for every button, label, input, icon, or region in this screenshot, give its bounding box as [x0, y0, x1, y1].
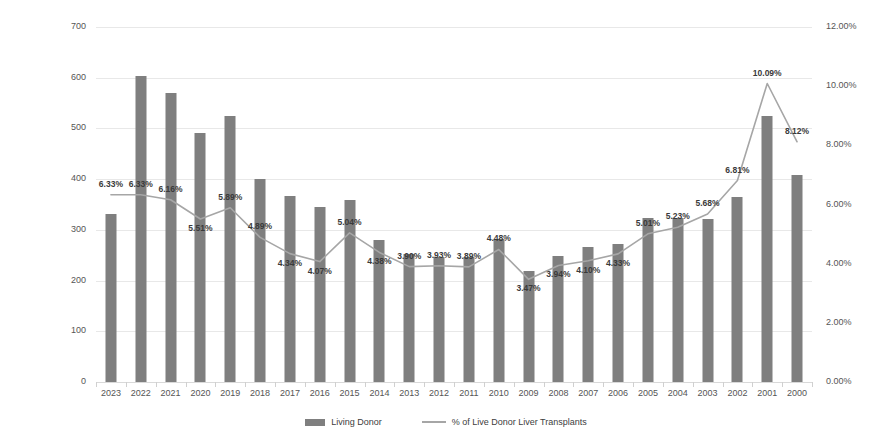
x-tick-2003: 2003: [698, 388, 718, 398]
point-label-2002: 6.81%: [725, 165, 749, 175]
left-axis-tick-0: 0: [30, 376, 86, 386]
left-axis-tick-700: 700: [30, 21, 86, 31]
point-label-2021: 6.16%: [159, 184, 183, 194]
point-label-2017: 4.34%: [278, 258, 302, 268]
x-tickmark: [186, 382, 187, 387]
left-axis-tick-300: 300: [30, 224, 86, 234]
x-tick-2017: 2017: [280, 388, 300, 398]
point-label-2022: 6.33%: [129, 179, 153, 189]
x-tick-2015: 2015: [340, 388, 360, 398]
point-label-2006: 4.33%: [606, 258, 630, 268]
x-tick-2021: 2021: [161, 388, 181, 398]
x-tickmark: [245, 382, 246, 387]
x-tick-2014: 2014: [369, 388, 389, 398]
x-tickmark: [663, 382, 664, 387]
x-tickmark: [424, 382, 425, 387]
left-axis-tick-200: 200: [30, 275, 86, 285]
point-label-2010: 4.48%: [487, 233, 511, 243]
point-label-2000: 8.12%: [785, 126, 809, 136]
point-label-2020: 5.51%: [188, 223, 212, 233]
point-label-2016: 4.07%: [308, 266, 332, 276]
x-tick-2018: 2018: [250, 388, 270, 398]
x-tickmark: [812, 382, 813, 387]
chart-container: 7006005004003002001000 12.00%10.00%8.00%…: [0, 0, 892, 439]
x-tickmark: [782, 382, 783, 387]
legend-line-swatch-icon: [422, 421, 446, 423]
x-tickmark: [693, 382, 694, 387]
x-tick-2019: 2019: [220, 388, 240, 398]
legend-item-living-donor[interactable]: Living Donor: [305, 417, 382, 427]
legend-label-percent-live-donor: % of Live Donor Liver Transplants: [452, 417, 587, 427]
x-tick-2008: 2008: [548, 388, 568, 398]
x-tickmark: [573, 382, 574, 387]
x-tickmark: [394, 382, 395, 387]
x-tickmark: [126, 382, 127, 387]
point-label-2008: 3.94%: [546, 269, 570, 279]
point-label-2005: 5.01%: [636, 218, 660, 228]
point-label-2007: 4.10%: [576, 265, 600, 275]
x-tickmark: [156, 382, 157, 387]
right-axis-tick-12.00: 12.00%: [826, 21, 886, 31]
x-tickmark: [514, 382, 515, 387]
x-tickmark: [633, 382, 634, 387]
x-tick-2013: 2013: [399, 388, 419, 398]
point-label-2011: 3.89%: [457, 251, 481, 261]
x-tickmark: [454, 382, 455, 387]
point-label-2003: 5.68%: [696, 198, 720, 208]
x-tickmark: [275, 382, 276, 387]
point-label-2023: 6.33%: [99, 179, 123, 189]
right-axis-tick-8.00: 8.00%: [826, 139, 886, 149]
legend-label-living-donor: Living Donor: [331, 417, 382, 427]
x-tickmark: [96, 382, 97, 387]
point-label-2001: 10.09%: [753, 68, 782, 78]
x-tickmark: [603, 382, 604, 387]
x-tick-2000: 2000: [787, 388, 807, 398]
x-tick-2001: 2001: [757, 388, 777, 398]
percent-line: [111, 84, 797, 280]
x-tick-2006: 2006: [608, 388, 628, 398]
x-tickmark: [305, 382, 306, 387]
right-axis-tick-2.00: 2.00%: [826, 317, 886, 327]
x-tick-2020: 2020: [190, 388, 210, 398]
point-label-2018: 4.89%: [248, 221, 272, 231]
left-axis-tick-600: 600: [30, 72, 86, 82]
point-label-2009: 3.47%: [517, 283, 541, 293]
x-tick-2009: 2009: [519, 388, 539, 398]
point-label-2013: 3.90%: [397, 251, 421, 261]
legend-bar-swatch-icon: [305, 419, 325, 426]
x-tickmark: [544, 382, 545, 387]
x-tick-2007: 2007: [578, 388, 598, 398]
x-tickmark: [335, 382, 336, 387]
x-tickmark: [752, 382, 753, 387]
chart-legend: Living Donor % of Live Donor Liver Trans…: [0, 417, 892, 427]
x-tick-2010: 2010: [489, 388, 509, 398]
point-label-2019: 5.89%: [218, 192, 242, 202]
x-tick-2023: 2023: [101, 388, 121, 398]
left-axis-tick-100: 100: [30, 325, 86, 335]
right-axis-tick-10.00: 10.00%: [826, 80, 886, 90]
x-tick-2005: 2005: [638, 388, 658, 398]
x-tick-2012: 2012: [429, 388, 449, 398]
x-tickmark: [723, 382, 724, 387]
point-label-2004: 5.23%: [666, 211, 690, 221]
x-tick-2011: 2011: [459, 388, 478, 398]
right-axis-tick-0.00: 0.00%: [826, 376, 886, 386]
left-axis-tick-500: 500: [30, 122, 86, 132]
x-tick-2022: 2022: [131, 388, 151, 398]
x-tick-2016: 2016: [310, 388, 330, 398]
right-axis-tick-6.00: 6.00%: [826, 199, 886, 209]
x-tickmark: [365, 382, 366, 387]
right-axis-tick-4.00: 4.00%: [826, 258, 886, 268]
x-tick-2004: 2004: [668, 388, 688, 398]
x-tickmark: [484, 382, 485, 387]
x-tick-2002: 2002: [727, 388, 747, 398]
x-tickmark: [215, 382, 216, 387]
legend-item-percent-live-donor[interactable]: % of Live Donor Liver Transplants: [422, 417, 587, 427]
point-label-2014: 4.38%: [367, 256, 391, 266]
point-label-2012: 3.93%: [427, 250, 451, 260]
point-label-2015: 5.04%: [338, 217, 362, 227]
left-axis-tick-400: 400: [30, 173, 86, 183]
